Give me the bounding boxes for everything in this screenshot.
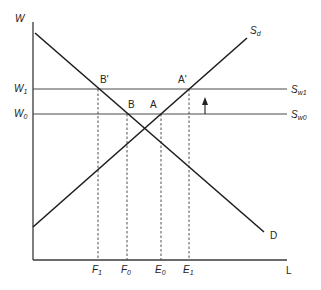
tick-e1: E1 xyxy=(183,265,194,276)
demand-label: D xyxy=(270,231,277,241)
tick-f0: F0 xyxy=(121,265,131,276)
tick-e0: E0 xyxy=(155,265,166,276)
x-axis-label: L xyxy=(286,266,292,276)
sw0-label: Sw0 xyxy=(291,110,307,121)
point-a: A xyxy=(150,100,157,110)
wage-w1-label: W1 xyxy=(14,84,27,95)
wage-w0-label: W0 xyxy=(14,109,27,120)
point-a-prime: A' xyxy=(178,75,187,85)
y-axis-label: W xyxy=(15,14,24,24)
domestic-supply-curve xyxy=(33,38,247,227)
demand-curve xyxy=(35,33,264,232)
domestic-supply-label: Sd xyxy=(250,26,261,37)
sw1-label: Sw1 xyxy=(291,85,307,96)
point-b: B xyxy=(128,100,135,110)
point-b-prime: B' xyxy=(100,75,109,85)
diagram-canvas xyxy=(0,0,321,290)
tick-f1: F1 xyxy=(92,265,102,276)
shift-up-arrow-icon xyxy=(202,97,208,114)
